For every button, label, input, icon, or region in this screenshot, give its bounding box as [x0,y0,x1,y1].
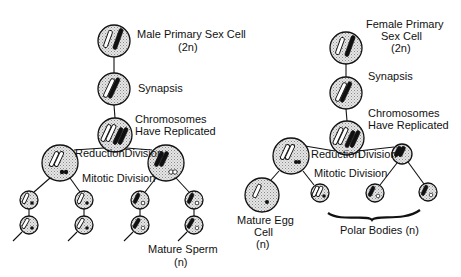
link [176,178,189,192]
spermatogenesis-branch: Male Primary Sex Cell (2n) Synapsis Chro… [13,25,246,268]
female-primary-cell [330,32,362,64]
polar-body [366,184,384,202]
sperm-tail [68,232,77,241]
male-replicated-label-2: Have Replicated [135,125,216,137]
male-reduction-label: ReductionDivision [75,147,163,159]
link [70,178,80,192]
female-reduction-label-b: Division [358,148,397,160]
female-replicated-label-1: Chromosomes [368,107,440,119]
female-synapsis-label: Synapsis [368,70,413,82]
male-secondary-cell [185,191,203,209]
sperm-tail [178,232,187,241]
sperm-tail [13,232,22,241]
gametogenesis-diagram: Male Primary Sex Cell (2n) Synapsis Chro… [0,0,461,277]
male-synapsis-label: Synapsis [138,82,183,94]
mature-sperm-label: Mature Sperm [148,243,218,255]
female-replicated-label-2: Have Replicated [368,119,449,131]
polar-bodies-brace [328,210,420,220]
link [34,178,50,192]
link [346,109,347,121]
male-primary-label: Male Primary Sex Cell [137,28,246,40]
sperm-tail [124,232,133,241]
mature-egg-label-2: Cell [254,226,273,238]
male-secondary-cell [20,191,38,209]
polar-bodies-label: Polar Bodies (n) [340,224,419,236]
mature-sperm-cell [75,216,93,234]
male-synapsis-cell [98,73,130,105]
link [408,162,424,184]
female-mitotic-label: Mitotic Division [314,167,387,179]
female-reduction-label-a: Reduction [311,148,361,160]
male-secondary-cell [131,191,149,209]
mature-egg-cell [245,178,279,212]
link [114,105,115,118]
mature-sperm-cell [131,216,149,234]
female-primary-label-2: Sex Cell [381,30,422,42]
mature-sperm-cell [185,216,203,234]
polar-body [419,183,437,201]
male-reduction-cell-left [42,145,78,181]
mature-egg-ploidy: (n) [256,238,269,250]
female-synapsis-cell [330,77,362,109]
female-ploidy-label: (2n) [391,42,411,54]
polar-body [311,184,329,202]
link [303,171,314,185]
mature-egg-label-1: Mature Egg [237,214,294,226]
male-replicated-label-1: Chromosomes [135,113,207,125]
male-mitotic-label: Mitotic Division [82,172,155,184]
male-secondary-cell [75,191,93,209]
male-ploidy-label: (2n) [178,41,198,53]
oogenesis-branch: Female Primary Sex Cell (2n) Synapsis Ch… [237,18,449,250]
male-primary-cell [98,25,130,57]
mature-sperm-ploidy: (n) [174,256,187,268]
mature-sperm-cell [20,216,38,234]
female-reduction-cell-large [273,138,309,174]
link [271,171,279,180]
female-primary-label-1: Female Primary [366,18,444,30]
